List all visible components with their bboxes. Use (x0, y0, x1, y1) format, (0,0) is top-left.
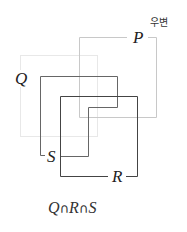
label-P: P (131, 29, 145, 46)
set-Q-left-edge (41, 77, 46, 156)
formula-R: R (69, 199, 79, 216)
set-outlines (0, 0, 187, 232)
intersection-symbol: ∩ (60, 201, 70, 216)
venn-region-diagram: 우변 P Q S R Q∩R∩S (0, 0, 187, 232)
right-side-note: 우변 (150, 18, 168, 28)
label-S: S (46, 148, 57, 165)
formula-S: S (88, 199, 96, 216)
label-R: R (110, 168, 124, 185)
intersection-symbol: ∩ (79, 201, 89, 216)
label-Q: Q (15, 70, 27, 87)
intersection-formula: Q∩R∩S (48, 200, 96, 216)
formula-Q: Q (48, 199, 60, 216)
